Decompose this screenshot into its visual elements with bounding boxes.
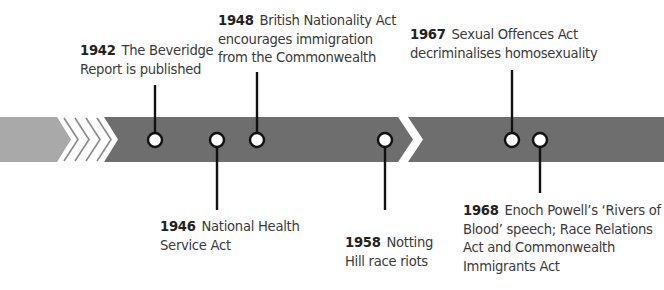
- band-light-segment: [0, 117, 71, 162]
- event-year: 1967: [410, 27, 446, 42]
- event-description: Act and Commonwealth: [463, 240, 615, 255]
- event-text-line: Report is published: [80, 61, 213, 80]
- pin-circle-icon: [533, 133, 547, 147]
- event-description: Immigrants Act: [463, 259, 560, 274]
- event-year: 1968: [463, 203, 499, 218]
- event-label-1968: 1968Enoch Powell’s ‘Rivers ofBlood’ spee…: [463, 202, 661, 276]
- pin-1948: [250, 72, 264, 147]
- event-text-line: 1967Sexual Offences Act: [410, 26, 597, 45]
- chevron-stripes: [64, 118, 111, 161]
- pin-1968: [533, 133, 547, 193]
- pin-circle-icon: [148, 133, 162, 147]
- event-text-line: Hill race riots: [345, 253, 433, 272]
- pin-1946: [210, 133, 224, 210]
- event-label-1946: 1946National HealthService Act: [160, 218, 299, 255]
- event-text-line: 1968Enoch Powell’s ‘Rivers of: [463, 202, 661, 221]
- event-description: Blood’ speech; Race Relations: [463, 222, 653, 237]
- event-text-line: 1946National Health: [160, 218, 299, 237]
- event-text-line: decriminalises homosexuality: [410, 45, 597, 64]
- event-description: from the Commonwealth: [218, 50, 376, 65]
- event-text-line: from the Commonwealth: [218, 49, 396, 68]
- event-description: Sexual Offences Act: [452, 27, 578, 42]
- event-description: National Health: [202, 219, 300, 234]
- event-year: 1948: [218, 13, 254, 28]
- event-text-line: 1948British Nationality Act: [218, 12, 396, 31]
- event-text-line: Act and Commonwealth: [463, 239, 661, 258]
- event-label-1958: 1958NottingHill race riots: [345, 234, 433, 271]
- event-description: Hill race riots: [345, 254, 428, 269]
- event-text-line: 1958Notting: [345, 234, 433, 253]
- event-year: 1946: [160, 219, 196, 234]
- event-year: 1958: [345, 235, 381, 250]
- pin-circle-icon: [505, 133, 519, 147]
- event-description: encourages immigration: [218, 32, 373, 47]
- event-description: Service Act: [160, 238, 231, 253]
- pin-circle-icon: [210, 133, 224, 147]
- event-label-1967: 1967Sexual Offences Actdecriminalises ho…: [410, 26, 597, 63]
- pin-1958: [378, 133, 392, 210]
- event-text-line: Immigrants Act: [463, 258, 661, 277]
- event-text-line: Blood’ speech; Race Relations: [463, 221, 661, 240]
- pin-1967: [505, 70, 519, 147]
- pin-circle-icon: [378, 133, 392, 147]
- pin-circle-icon: [250, 133, 264, 147]
- event-description: Notting: [387, 235, 434, 250]
- event-description: decriminalises homosexuality: [410, 46, 597, 61]
- event-description: Enoch Powell’s ‘Rivers of: [505, 203, 661, 218]
- pin-1942: [148, 85, 162, 147]
- event-label-1942: 1942The BeveridgeReport is published: [80, 42, 213, 79]
- event-label-1948: 1948British Nationality Actencourages im…: [218, 12, 396, 68]
- event-text-line: Service Act: [160, 237, 299, 256]
- event-text-line: 1942The Beveridge: [80, 42, 213, 61]
- event-description: The Beveridge: [122, 43, 214, 58]
- event-text-line: encourages immigration: [218, 31, 396, 50]
- event-description: Report is published: [80, 62, 201, 77]
- event-description: British Nationality Act: [260, 13, 396, 28]
- event-year: 1942: [80, 43, 116, 58]
